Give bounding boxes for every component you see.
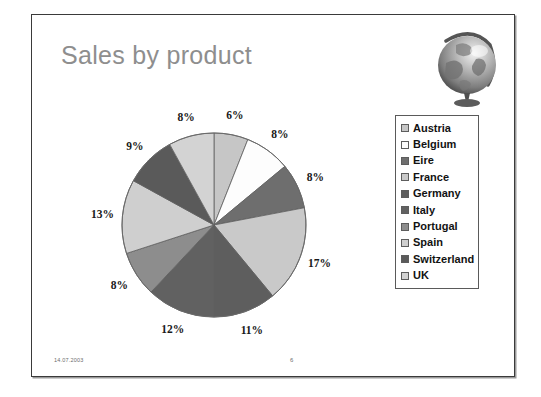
legend-item[interactable]: Belgium — [401, 136, 474, 152]
legend-item[interactable]: Italy — [401, 202, 474, 218]
legend-swatch-icon — [401, 223, 409, 231]
legend-item-label: Austria — [413, 123, 451, 134]
chart-legend: AustriaBelgiumEireFranceGermanyItalyPort… — [395, 115, 479, 289]
pie-chart: 6%8%8%17%11%12%8%13%9%8% — [92, 103, 352, 338]
legend-swatch-icon — [401, 272, 409, 280]
pie-slice-label: 13% — [91, 208, 114, 220]
legend-item-label: Portugal — [413, 221, 458, 232]
legend-item[interactable]: France — [401, 169, 474, 185]
legend-item-label: Italy — [413, 205, 435, 216]
pie-slice-label: 8% — [271, 128, 288, 140]
legend-swatch-icon — [401, 141, 409, 149]
legend-item[interactable]: UK — [401, 268, 474, 284]
pie-slice-label: 8% — [178, 111, 195, 123]
legend-item[interactable]: Eire — [401, 153, 474, 169]
pie-slice-label: 12% — [161, 323, 184, 335]
presentation-slide: Sales by product 6%8%8%17 — [31, 14, 515, 377]
pie-slice-label: 11% — [241, 324, 263, 336]
legend-item-label: Eire — [413, 155, 434, 166]
pie-slice-label: 6% — [226, 109, 243, 121]
pie-slice-label: 8% — [307, 171, 324, 183]
legend-swatch-icon — [401, 239, 409, 247]
legend-item-label: Germany — [413, 188, 461, 199]
pie-slice-label: 9% — [126, 140, 143, 152]
pie-chart-svg — [114, 125, 314, 325]
legend-item-label: UK — [413, 270, 429, 281]
legend-swatch-icon — [401, 255, 409, 263]
legend-item[interactable]: Portugal — [401, 218, 474, 234]
globe-image — [426, 23, 508, 111]
legend-item-label: Switzerland — [413, 254, 474, 265]
legend-swatch-icon — [401, 190, 409, 198]
pie-slice-label: 17% — [308, 257, 331, 269]
footer-date: 14.07.2003 — [54, 357, 84, 363]
legend-swatch-icon — [401, 124, 409, 132]
legend-item-label: France — [413, 172, 449, 183]
legend-item[interactable]: Germany — [401, 186, 474, 202]
pie-slice-label: 8% — [111, 279, 128, 291]
legend-item-label: Belgium — [413, 139, 456, 150]
legend-swatch-icon — [401, 157, 409, 165]
legend-swatch-icon — [401, 173, 409, 181]
legend-item[interactable]: Spain — [401, 235, 474, 251]
page-title: Sales by product — [61, 41, 252, 70]
legend-item[interactable]: Switzerland — [401, 251, 474, 267]
footer-page-number: 6 — [290, 357, 293, 363]
legend-swatch-icon — [401, 206, 409, 214]
legend-item-label: Spain — [413, 237, 443, 248]
legend-item[interactable]: Austria — [401, 120, 474, 136]
